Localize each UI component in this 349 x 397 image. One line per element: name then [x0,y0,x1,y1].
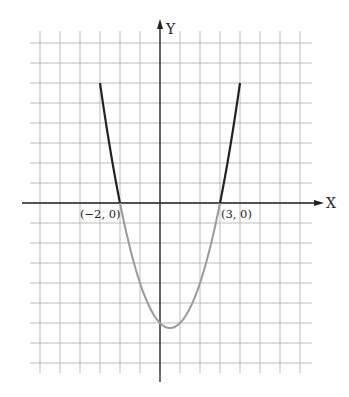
curve-negative-region [120,203,220,328]
x-axis-label: X [326,195,336,211]
x-axis-arrow-icon [314,200,324,206]
parabola-chart: X Y (−2, 0) (3, 0) [0,0,349,397]
root-left-label: (−2, 0) [80,207,121,221]
y-axis-arrow-icon [157,19,163,29]
root-right-label: (3, 0) [221,207,252,221]
grid-lines [30,31,312,373]
y-axis-label: Y [165,21,176,37]
curves [100,83,240,328]
